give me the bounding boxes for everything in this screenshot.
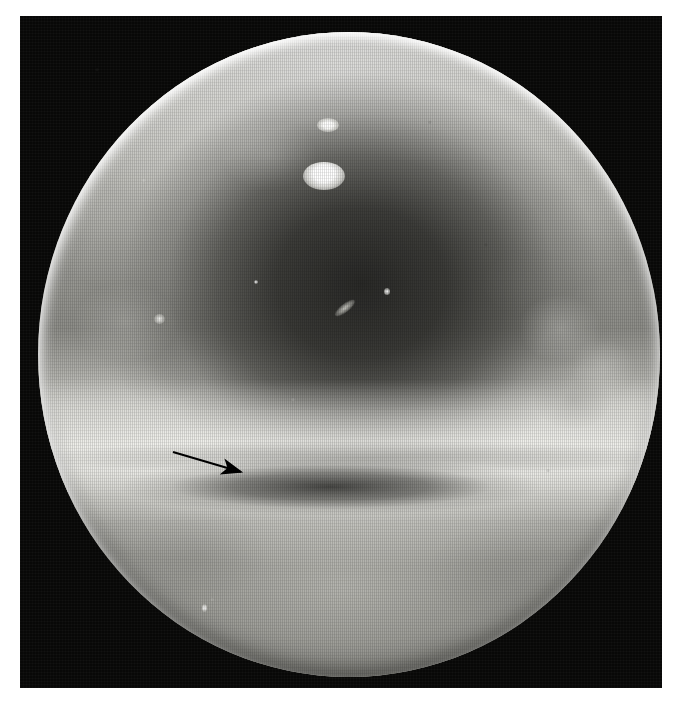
endoscopy-figure	[0, 0, 680, 705]
mucosal-mottling	[38, 32, 660, 677]
circular-endoscope-field	[38, 32, 660, 677]
black-photographic-border	[20, 16, 662, 688]
